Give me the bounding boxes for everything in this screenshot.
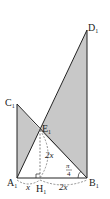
label-ah-length: x [25,182,30,192]
label-d: D1 [88,22,98,34]
label-h: H1 [36,183,46,195]
right-angle-mark [36,174,40,178]
shaded-triangle-a-c-e [17,104,40,178]
geometry-diagram: D1 C1 E1 A1 H1 B1 2x x 2x π 4 [0,0,110,199]
angle-arc-b [78,171,81,178]
label-eh-length: 2x [45,150,54,160]
label-hb-length: 2x [59,182,68,192]
label-b: B1 [89,177,99,189]
angle-numerator: π [66,162,70,170]
label-a: A1 [7,177,17,189]
label-c: C1 [5,97,15,109]
angle-denominator: 4 [67,170,71,178]
